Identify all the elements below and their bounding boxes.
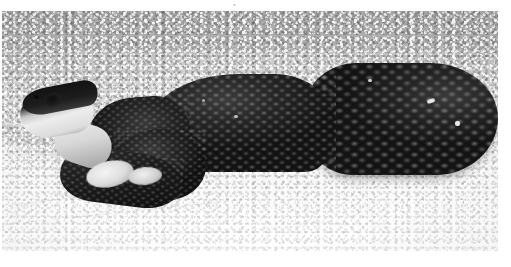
- photo-caption: Black-and-white photograph of a dark sna…: [0, 0, 1, 1]
- scale-highlight-speck: [368, 79, 372, 82]
- scale-highlight-speck: [455, 121, 460, 126]
- scale-highlight-speck: [202, 99, 205, 102]
- photograph: [2, 11, 498, 251]
- snake: [2, 11, 498, 251]
- photo-page: Black-and-white photograph of a dark sna…: [0, 0, 511, 267]
- scan-dust-speck: [233, 4, 236, 6]
- scale-highlight-speck: [234, 115, 238, 118]
- snake-eye: [34, 95, 39, 99]
